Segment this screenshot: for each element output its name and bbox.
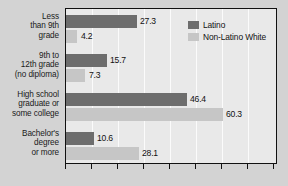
axis-tick [117, 164, 118, 169]
category-axis-labels: Less than 9th grade 9th to 12th grade (n… [0, 8, 62, 164]
bar-nonlatino-9th-to-12th[interactable] [66, 69, 85, 82]
bar-nonlatino-high-school[interactable] [66, 108, 223, 121]
category-label-9th-to-12th: 9th to 12th grade (no diploma) [0, 51, 59, 79]
axis-tick [65, 164, 66, 169]
category-label-line: or more [0, 148, 59, 157]
bar-value-latino-bachelors: 10.6 [97, 132, 113, 145]
legend-swatch-latino-icon [188, 21, 199, 29]
category-label-line: (no diploma) [0, 70, 59, 79]
category-label-high-school: High school graduate or some college [0, 90, 59, 118]
axis-tick [273, 164, 274, 169]
category-label-line: 9th to [0, 51, 59, 60]
x-axis-ticks [65, 164, 277, 170]
category-label-less-than-9th: Less than 9th grade [0, 12, 59, 40]
axis-tick [91, 164, 92, 169]
bar-value-nonlatino-high-school: 60.3 [226, 108, 242, 121]
category-label-line: Less [0, 12, 59, 21]
legend-swatch-nonlatino-icon [188, 33, 199, 41]
bar-nonlatino-less-than-9th[interactable] [66, 30, 77, 43]
category-label-line: graduate or [0, 99, 59, 108]
axis-tick [221, 164, 222, 169]
legend-item-latino[interactable]: Latino [188, 19, 276, 30]
category-label-line: than 9th [0, 21, 59, 30]
bar-value-latino-9th-to-12th: 15.7 [110, 54, 126, 67]
bar-value-nonlatino-less-than-9th: 4.2 [81, 30, 92, 43]
category-label-line: High school [0, 90, 59, 99]
bar-latino-bachelors[interactable] [66, 132, 94, 145]
bar-latino-high-school[interactable] [66, 93, 187, 106]
category-label-line: Bachelor's [0, 129, 59, 138]
bar-chart: Less than 9th grade 9th to 12th grade (n… [0, 0, 288, 186]
legend-label-latino: Latino [203, 20, 225, 30]
bar-value-nonlatino-9th-to-12th: 7.3 [89, 69, 100, 82]
bar-nonlatino-bachelors[interactable] [66, 147, 139, 160]
axis-tick [195, 164, 196, 169]
axis-tick [247, 164, 248, 169]
category-label-bachelors: Bachelor's degree or more [0, 129, 59, 157]
legend: Latino Non-Latino White [188, 19, 276, 43]
category-label-line: degree [0, 138, 59, 147]
bar-value-latino-less-than-9th: 27.3 [140, 15, 156, 28]
category-label-line: grade [0, 31, 59, 40]
category-label-line: some college [0, 109, 59, 118]
legend-item-nonlatino-white[interactable]: Non-Latino White [188, 31, 276, 42]
bar-value-nonlatino-bachelors: 28.1 [142, 147, 158, 160]
bar-latino-9th-to-12th[interactable] [66, 54, 107, 67]
axis-tick [169, 164, 170, 169]
bar-latino-less-than-9th[interactable] [66, 15, 137, 28]
plot-area: 27.3 4.2 15.7 7.3 46.4 60.3 10.6 28.1 La… [65, 8, 277, 164]
bar-value-latino-high-school: 46.4 [190, 93, 206, 106]
axis-tick [143, 164, 144, 169]
legend-label-nonlatino-white: Non-Latino White [203, 32, 266, 42]
category-label-line: 12th grade [0, 60, 59, 69]
